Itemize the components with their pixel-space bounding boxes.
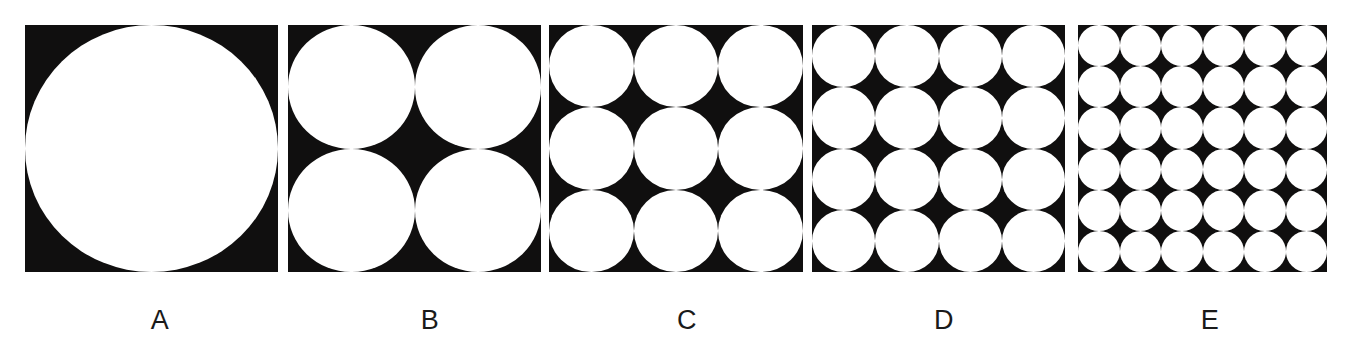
circle — [549, 107, 634, 189]
panel-b — [288, 25, 541, 272]
circle — [1244, 231, 1286, 272]
circle — [1120, 25, 1162, 66]
circle — [1161, 107, 1203, 148]
circle — [939, 149, 1002, 211]
circle — [549, 190, 634, 272]
circle-grid — [549, 25, 803, 272]
circle — [1203, 190, 1245, 231]
circle-packing-figure: ABCDE — [0, 0, 1353, 362]
circle — [1078, 107, 1120, 148]
panel-label-c: C — [647, 307, 727, 334]
circle — [1286, 149, 1328, 190]
circle — [812, 87, 875, 149]
circle — [1161, 149, 1203, 190]
panel-d — [812, 25, 1065, 272]
circle — [1078, 231, 1120, 272]
circle — [1078, 149, 1120, 190]
circle — [1286, 107, 1328, 148]
circle — [1161, 66, 1203, 107]
circle — [634, 25, 719, 107]
circle — [1002, 25, 1065, 87]
circle — [718, 107, 803, 189]
panel-a — [25, 25, 278, 272]
circle — [812, 210, 875, 272]
circle — [1161, 231, 1203, 272]
circle — [1078, 190, 1120, 231]
circle — [634, 190, 719, 272]
circle — [1120, 149, 1162, 190]
circle — [875, 87, 938, 149]
circle — [25, 25, 278, 272]
circle — [1120, 190, 1162, 231]
circle — [549, 25, 634, 107]
circle — [1078, 25, 1120, 66]
circle — [875, 25, 938, 87]
circle — [1002, 87, 1065, 149]
circle — [1244, 66, 1286, 107]
circle — [1244, 107, 1286, 148]
circle — [1203, 107, 1245, 148]
circle-grid — [812, 25, 1065, 272]
circle — [415, 25, 542, 149]
circle — [939, 210, 1002, 272]
circle — [1203, 25, 1245, 66]
circle — [1244, 190, 1286, 231]
panel-label-a: A — [120, 307, 200, 334]
circle — [288, 25, 415, 149]
circle — [288, 149, 415, 273]
circle-grid — [288, 25, 541, 272]
circle-grid — [25, 25, 278, 272]
circle — [1002, 149, 1065, 211]
circle-grid — [1078, 25, 1327, 272]
circle — [415, 149, 542, 273]
panel-e — [1078, 25, 1327, 272]
circle — [1203, 149, 1245, 190]
circle — [939, 25, 1002, 87]
circle — [1286, 190, 1328, 231]
circle — [1120, 107, 1162, 148]
circle — [1203, 66, 1245, 107]
circle — [718, 190, 803, 272]
panel-label-b: B — [390, 307, 470, 334]
circle — [1286, 66, 1328, 107]
circle — [1286, 231, 1328, 272]
circle — [1120, 231, 1162, 272]
panel-label-e: E — [1170, 307, 1250, 334]
circle — [1244, 149, 1286, 190]
circle — [634, 107, 719, 189]
circle — [1002, 210, 1065, 272]
circle — [812, 149, 875, 211]
circle — [1120, 66, 1162, 107]
circle — [1286, 25, 1328, 66]
panel-c — [549, 25, 803, 272]
circle — [1078, 66, 1120, 107]
circle — [1244, 25, 1286, 66]
panel-label-d: D — [904, 307, 984, 334]
circle — [875, 210, 938, 272]
circle — [718, 25, 803, 107]
circle — [939, 87, 1002, 149]
circle — [812, 25, 875, 87]
circle — [1161, 25, 1203, 66]
circle — [1161, 190, 1203, 231]
circle — [875, 149, 938, 211]
circle — [1203, 231, 1245, 272]
